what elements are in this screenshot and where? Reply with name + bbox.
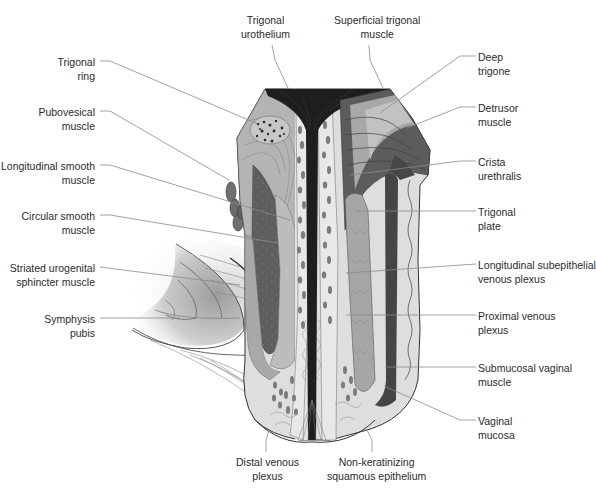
label-trigonal-urothelium: Trigonal urothelium [241,13,290,41]
label-longitudinal-subepithelial-venous-plexus: Longitudinal subepithelial venous plexus [478,258,596,286]
label-striated-urogenital-sphincter: Striated urogenital sphincter muscle [10,261,95,289]
label-proximal-venous-plexus: Proximal venous plexus [478,309,556,337]
label-pubovesical-muscle: Pubovesical muscle [38,105,95,133]
label-vaginal-mucosa: Vaginal mucosa [478,414,515,442]
label-non-keratinizing-squamous-epithelium: Non-keratinizing squamous epithelium [327,455,426,483]
symphysis-pubis-region [106,239,266,400]
label-symphysis-pubis: Symphysis pubis [44,312,95,340]
label-distal-venous-plexus: Distal venous plexus [236,455,299,483]
label-longitudinal-smooth-muscle: Longitudinal smooth muscle [1,159,95,187]
label-superficial-trigonal-muscle: Superficial trigonal muscle [334,13,420,41]
label-crista-urethralis: Crista urethralis [478,155,521,183]
label-circular-smooth-muscle: Circular smooth muscle [21,209,95,237]
label-deep-trigone: Deep trigone [478,50,510,78]
label-trigonal-ring: Trigonal ring [57,55,95,83]
label-detrusor-muscle: Detrusor muscle [478,101,518,129]
label-trigonal-plate: Trigonal plate [478,205,516,233]
label-submucosal-vaginal-muscle: Submucosal vaginal muscle [478,361,572,389]
